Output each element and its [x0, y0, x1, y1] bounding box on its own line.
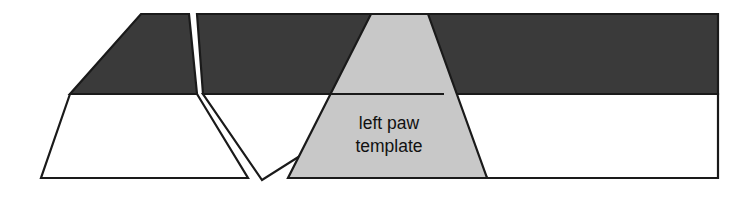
left-paw-template-caption-line1: left paw	[359, 113, 420, 133]
left-paw-template-caption-line2: template	[355, 136, 422, 156]
figure-root: left paw template	[0, 0, 755, 203]
left-paw-template-svg: left paw template	[0, 0, 755, 203]
shape-right-band-upper-dark	[428, 14, 718, 94]
shape-right-band-lower-white	[444, 94, 718, 178]
